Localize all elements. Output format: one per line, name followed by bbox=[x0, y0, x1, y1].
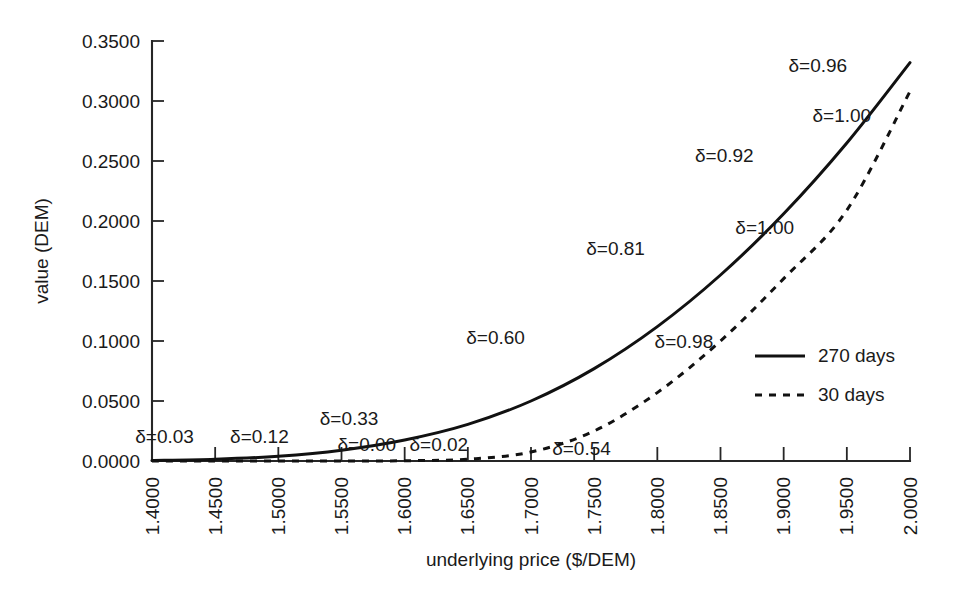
chart-legend: 270 days 30 days bbox=[755, 345, 895, 405]
y-tick-label: 0.3000 bbox=[82, 91, 140, 112]
x-tick-label: 2.0000 bbox=[900, 477, 921, 535]
x-tick-label: 1.5500 bbox=[331, 477, 352, 535]
delta-annotation: δ=0.33 bbox=[320, 408, 379, 429]
series-line-270-days bbox=[152, 63, 910, 461]
x-tick-label: 1.4000 bbox=[142, 477, 163, 535]
y-tick-label: 0.0000 bbox=[82, 451, 140, 472]
x-tick-label: 1.7500 bbox=[584, 477, 605, 535]
x-tick-label: 1.9000 bbox=[773, 477, 794, 535]
x-tick-label: 1.8500 bbox=[710, 477, 731, 535]
delta-annotation: δ=0.12 bbox=[230, 426, 289, 447]
x-tick-label: 1.5000 bbox=[268, 477, 289, 535]
chart-figure: 0.00000.05000.10000.15000.20000.25000.30… bbox=[0, 0, 953, 595]
x-axis-ticks bbox=[152, 447, 910, 461]
y-tick-label: 0.2000 bbox=[82, 211, 140, 232]
y-axis-ticks bbox=[152, 41, 164, 461]
legend-label-270-days: 270 days bbox=[818, 345, 895, 366]
x-tick-label: 1.6500 bbox=[457, 477, 478, 535]
y-tick-label: 0.2500 bbox=[82, 151, 140, 172]
y-tick-label: 0.1500 bbox=[82, 271, 140, 292]
x-tick-label: 1.4500 bbox=[205, 477, 226, 535]
x-tick-label: 1.7000 bbox=[521, 477, 542, 535]
delta-annotation: δ=0.92 bbox=[695, 145, 754, 166]
delta-annotation: δ=0.98 bbox=[655, 331, 714, 352]
delta-annotation: δ=1.00 bbox=[812, 105, 871, 126]
delta-annotation: δ=0.00 bbox=[337, 434, 396, 455]
x-tick-label: 1.9500 bbox=[836, 477, 857, 535]
chart-canvas: 0.00000.05000.10000.15000.20000.25000.30… bbox=[0, 0, 953, 595]
series-line-30-days bbox=[152, 91, 910, 461]
legend-label-30-days: 30 days bbox=[818, 384, 885, 405]
delta-annotation: δ=0.54 bbox=[552, 438, 611, 459]
delta-annotation: δ=0.60 bbox=[466, 327, 525, 348]
y-tick-label: 0.0500 bbox=[82, 391, 140, 412]
delta-annotation: δ=0.02 bbox=[409, 434, 468, 455]
axes-group bbox=[152, 41, 910, 461]
x-axis-title: underlying price ($/DEM) bbox=[426, 549, 636, 570]
x-axis-tick-labels: 1.40001.45001.50001.55001.60001.65001.70… bbox=[142, 477, 921, 535]
delta-annotation: δ=1.00 bbox=[735, 217, 794, 238]
y-tick-label: 0.1000 bbox=[82, 331, 140, 352]
delta-annotation: δ=0.03 bbox=[135, 426, 194, 447]
delta-annotations-group: δ=0.03δ=0.12δ=0.33δ=0.60δ=0.81δ=0.92δ=0.… bbox=[135, 55, 871, 459]
delta-annotation: δ=0.81 bbox=[586, 238, 645, 259]
x-tick-label: 1.8000 bbox=[647, 477, 668, 535]
delta-annotation: δ=0.96 bbox=[788, 55, 847, 76]
y-tick-label: 0.3500 bbox=[82, 31, 140, 52]
y-axis-title: value (DEM) bbox=[31, 198, 52, 304]
y-axis-tick-labels: 0.00000.05000.10000.15000.20000.25000.30… bbox=[82, 31, 140, 472]
x-tick-label: 1.6000 bbox=[394, 477, 415, 535]
